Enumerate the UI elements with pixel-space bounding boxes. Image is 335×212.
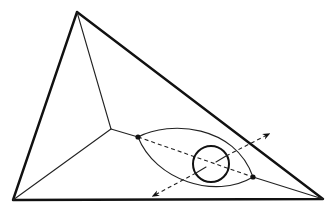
lens-upper-arc (138, 128, 253, 177)
left-node (135, 134, 140, 139)
diagram-canvas (0, 0, 335, 212)
right-node-to-right-vertex-edge (253, 177, 323, 199)
lens-lower-arc (138, 137, 253, 187)
arrow-down-left-solid (196, 167, 206, 173)
left-vertex-to-junction-edge (13, 129, 111, 200)
right-node (250, 174, 255, 179)
inscribed-circle (193, 146, 229, 182)
junction-to-left-node-edge (111, 129, 138, 137)
apex-to-junction-edge (77, 12, 111, 129)
arrow-up-right-solid (216, 156, 226, 162)
